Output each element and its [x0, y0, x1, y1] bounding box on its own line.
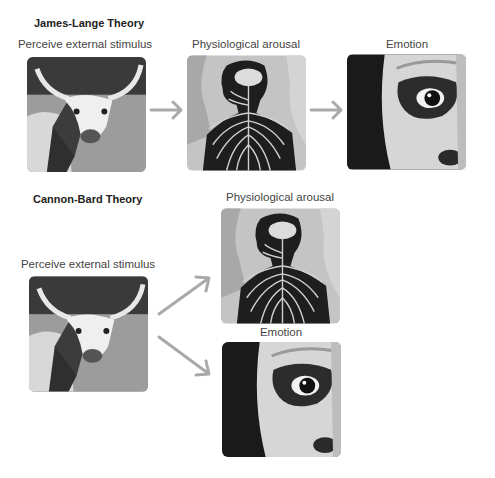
jl-step-arousal-label: Physiological arousal — [171, 38, 321, 50]
arrow-right-icon — [150, 100, 184, 120]
cb-step-perceive-label: Perceive external stimulus — [13, 258, 163, 270]
cannon-bard-title: Cannon-Bard Theory — [33, 193, 142, 205]
arrow-right-icon — [310, 100, 344, 120]
james-lange-title: James-Lange Theory — [34, 17, 144, 29]
arrow-down-right-icon — [159, 337, 209, 375]
jl-step-emotion-label: Emotion — [357, 38, 457, 50]
nervous-system-image — [221, 208, 340, 324]
arrow-diagonal-icons — [154, 272, 216, 382]
arrow-up-right-icon — [159, 277, 209, 314]
longhorn-cow-image — [27, 57, 146, 172]
nervous-system-image — [187, 55, 306, 171]
longhorn-cow-image — [29, 276, 148, 392]
jl-step-perceive-label: Perceive external stimulus — [10, 38, 160, 50]
cb-step-emotion-label: Emotion — [231, 326, 331, 338]
cb-step-arousal-label: Physiological arousal — [205, 191, 355, 203]
frightened-face-image — [347, 54, 466, 170]
frightened-face-image — [222, 342, 341, 457]
